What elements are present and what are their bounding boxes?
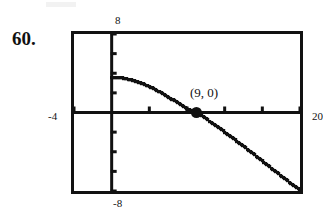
y-axis-tick [111, 150, 117, 153]
y-axis-tick [111, 170, 117, 173]
point-marker-dot [191, 107, 202, 118]
window-xmax-label: 20 [312, 111, 323, 122]
exercise-number: 60. [12, 29, 36, 48]
x-axis-tick [299, 107, 301, 112]
window-ymin-label: -8 [113, 198, 122, 209]
scan-artifact [46, 2, 76, 7]
axes-group [74, 34, 300, 191]
y-axis-tick [111, 72, 117, 75]
figure-root: 60. 8 -8 -4 20 (9, 0) [0, 0, 323, 224]
y-axis-line [110, 34, 113, 191]
window-ymax-label: 8 [115, 15, 121, 26]
y-axis-tick [111, 52, 117, 55]
marked-point [191, 107, 202, 118]
graph-canvas [74, 34, 300, 191]
curve-pixel [298, 188, 300, 191]
y-axis-tick [111, 91, 117, 94]
point-coordinate-label: (9, 0) [190, 86, 218, 99]
calculator-viewing-window [71, 31, 303, 194]
x-axis-tick [261, 107, 264, 112]
x-axis-tick [223, 107, 226, 112]
x-axis-tick [74, 107, 76, 112]
y-axis-tick [111, 131, 117, 134]
y-axis-tick [111, 34, 117, 36]
window-xmin-label: -4 [48, 111, 57, 122]
x-axis-tick [148, 107, 151, 112]
y-axis-tick [111, 190, 117, 192]
